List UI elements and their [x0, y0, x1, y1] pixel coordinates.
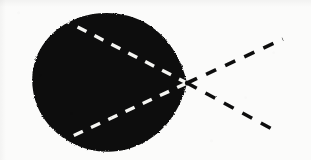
figure-container — [0, 0, 311, 160]
focal-point-marker — [185, 81, 189, 85]
ray-diagram-svg — [0, 0, 311, 160]
